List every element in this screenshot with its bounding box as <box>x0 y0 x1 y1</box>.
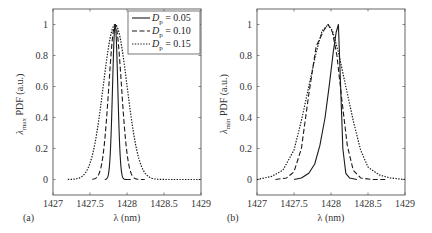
x-tick-label: 1427.5 <box>76 198 104 209</box>
axes-frame <box>257 9 405 195</box>
legend: Dp = 0.05Dp = 0.10Dp = 0.15 <box>128 11 200 54</box>
x-tick-label: 1427 <box>43 198 63 209</box>
y-tick-label: 0.6 <box>240 81 253 92</box>
y-tick-label: 1 <box>247 19 252 30</box>
x-tick-label: 1428 <box>117 198 137 209</box>
panel-b: 14271427.514281428.5142900.20.40.60.81λ … <box>218 9 415 224</box>
y-axis-label: λmin PDF (a.u.) <box>218 74 232 135</box>
x-axis-label: λ (nm) <box>318 212 345 224</box>
x-axis-label: λ (nm) <box>114 212 141 224</box>
series-line-solid <box>294 25 357 180</box>
x-tick-label: 1429 <box>191 198 211 209</box>
y-tick-label: 0 <box>247 174 252 185</box>
y-tick-label: 0.4 <box>36 112 49 123</box>
series-line-dotted <box>257 25 405 180</box>
y-tick-label: 0.2 <box>36 143 49 154</box>
y-tick-label: 0 <box>43 174 48 185</box>
y-tick-label: 1 <box>43 19 48 30</box>
y-axis-label: λmax PDF (a.u.) <box>14 74 28 136</box>
x-tick-label: 1429 <box>395 198 415 209</box>
y-tick-label: 0.8 <box>240 50 253 61</box>
x-tick-label: 1428.5 <box>150 198 178 209</box>
series-line-dashed <box>276 25 387 180</box>
figure: 14271427.514281428.5142900.20.40.60.81λ … <box>0 0 432 233</box>
y-tick-label: 0.6 <box>36 81 49 92</box>
x-tick-label: 1427.5 <box>280 198 308 209</box>
panel-a: 14271427.514281428.5142900.20.40.60.81λ … <box>14 9 211 224</box>
x-tick-label: 1428 <box>321 198 341 209</box>
panel-label: (b) <box>227 212 239 224</box>
x-tick-label: 1428.5 <box>354 198 382 209</box>
x-tick-label: 1427 <box>247 198 267 209</box>
y-tick-label: 0.8 <box>36 50 49 61</box>
y-tick-label: 0.2 <box>240 143 253 154</box>
panel-label: (a) <box>23 212 34 224</box>
series-line-solid <box>105 25 131 180</box>
y-tick-label: 0.4 <box>240 112 253 123</box>
